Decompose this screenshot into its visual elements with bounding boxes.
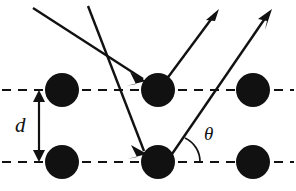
atom-bottom-center — [141, 145, 175, 179]
atom-bottom-left — [45, 145, 79, 179]
atom-top-center — [141, 73, 175, 107]
scattered-ray-1-arrowhead — [206, 9, 219, 30]
atom-top-right — [236, 73, 270, 107]
atom-top-left — [45, 73, 79, 107]
angle-theta-arc — [185, 138, 200, 162]
angle-label-theta: θ — [204, 123, 213, 144]
spacing-dimension-arrowhead-top — [33, 90, 45, 102]
bragg-diagram-canvas: d θ — [0, 0, 296, 191]
atom-bottom-right — [236, 145, 270, 179]
spacing-dimension-group — [33, 90, 45, 162]
atoms-group — [45, 73, 270, 179]
scattered-ray-1-line — [166, 14, 215, 80]
angle-marker-group — [185, 138, 200, 162]
spacing-label-d: d — [15, 113, 26, 137]
incident-ray-1-line — [33, 8, 143, 79]
bragg-diffraction-figure: d θ — [0, 0, 296, 191]
spacing-dimension-arrowhead-bottom — [33, 150, 45, 162]
